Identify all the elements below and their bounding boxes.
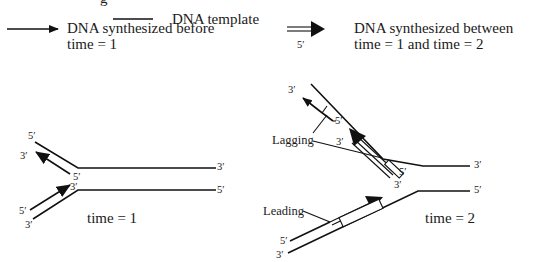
upper-new-strand-arrow (36, 152, 70, 174)
partial-top-glyph: g (100, 0, 108, 6)
fork2-right-top-3prime: 3′ (474, 159, 482, 170)
fork2-old-fragment-5prime: 5′ (335, 115, 343, 126)
new-okazaki-fragment-double-arrow (349, 128, 396, 178)
fork2-leading-3prime: 3′ (394, 179, 402, 190)
double-arrow-legend-icon (287, 21, 325, 37)
fork-time-1: 5′ 3′ 5′ 3′ 3′ 5′ 5′ 3′ time = 1 (19, 130, 225, 230)
fork1-top-template-5prime: 5′ (28, 130, 36, 141)
fork2-okazaki-3prime: 3′ (336, 136, 344, 147)
fork2-bottom-new-5prime: 5′ (280, 235, 288, 246)
leading-primer-box (339, 199, 383, 227)
fork2-right-bottom-5prime: 5′ (474, 184, 482, 195)
top-template-strand (35, 142, 216, 168)
fork1-bottom-new-5prime: 5′ (19, 205, 27, 216)
fork1-right-top-3prime: 3′ (217, 161, 225, 172)
lower-new-strand-arrow (30, 185, 70, 210)
fork-time-2: Lagging Leading 3′ 5′ 3′ 5′ 3′ 3′ 5′ 5′ … (263, 84, 482, 260)
dna-replication-fork-diagram: g DNA template DNA synthesized before ti… (0, 0, 541, 262)
fork2-old-fragment-3prime: 3′ (288, 84, 296, 95)
fork2-okazaki-5prime: 5′ (399, 166, 407, 177)
fork1-bottom-new-3prime: 3′ (70, 181, 78, 192)
fork2-bottom-template-3prime: 3′ (276, 249, 284, 260)
legend-before-label-line1: DNA synthesized before (67, 20, 215, 36)
fork1-top-new-3prime: 3′ (20, 150, 28, 161)
fork2-top-template-5prime: 5′ (297, 39, 305, 50)
old-fragment-tick (322, 106, 327, 113)
lagging-label: Lagging (272, 133, 314, 147)
legend: g DNA template DNA synthesized before ti… (7, 0, 514, 52)
lagging-pointer-old (313, 115, 327, 133)
legend-before-label-line2: time = 1 (67, 36, 117, 52)
leading-strand-double-arrow (290, 196, 383, 241)
leading-label: Leading (263, 204, 305, 218)
fork1-bottom-template-3prime: 3′ (25, 219, 33, 230)
leading-strand-existing (290, 222, 330, 241)
leading-pointer (303, 211, 330, 222)
legend-between-label-line2: time = 1 and time = 2 (354, 36, 483, 52)
fork1-right-bottom-5prime: 5′ (217, 184, 225, 195)
legend-between-label-line1: DNA synthesized between (354, 20, 514, 36)
fork1-caption: time = 1 (87, 210, 137, 226)
fork2-caption: time = 2 (425, 210, 475, 226)
